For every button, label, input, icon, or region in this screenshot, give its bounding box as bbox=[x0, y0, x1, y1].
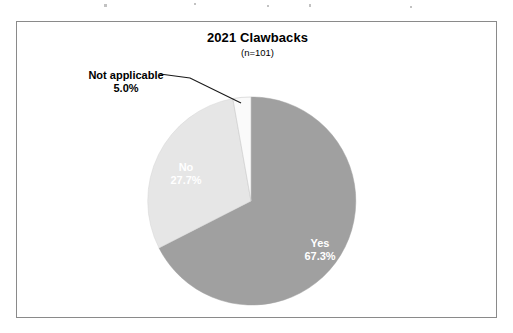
slice-value-not-applicable: 5.0% bbox=[61, 82, 191, 95]
slice-name-no: No bbox=[179, 161, 194, 173]
slice-value-yes: 67.3% bbox=[285, 250, 355, 263]
pie-svg bbox=[17, 22, 498, 319]
slice-label-yes: Yes 67.3% bbox=[285, 237, 355, 263]
scan-artifacts bbox=[0, 0, 513, 20]
pie-chart: Not applicable 5.0% No 27.7% Yes 67.3% bbox=[17, 22, 498, 319]
chart-frame: 2021 Clawbacks (n=101) Not applicable 5.… bbox=[16, 21, 497, 318]
slice-name-not-applicable: Not applicable bbox=[88, 69, 163, 81]
slice-name-yes: Yes bbox=[311, 237, 330, 249]
slice-value-no: 27.7% bbox=[151, 174, 221, 187]
slice-label-no: No 27.7% bbox=[151, 161, 221, 187]
slice-label-not-applicable: Not applicable 5.0% bbox=[61, 69, 191, 95]
